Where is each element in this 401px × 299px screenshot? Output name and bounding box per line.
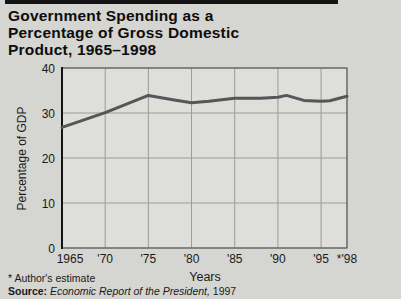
y-axis-tick-label: 20 — [42, 152, 56, 166]
x-axis-tick-label: '80 — [184, 252, 200, 266]
x-axis-tick-label: '75 — [141, 252, 157, 266]
x-axis-tick-label: '70 — [97, 252, 113, 266]
y-axis-tick-label: 10 — [42, 197, 56, 211]
x-axis-tick-label: '95 — [313, 252, 329, 266]
x-axis-tick-label: 1965 — [57, 252, 84, 266]
y-axis-tick-label: 0 — [48, 242, 55, 256]
x-axis-title: Years — [145, 270, 265, 284]
source-line: Source: Economic Report of the President… — [8, 285, 236, 297]
x-axis-tick-label: '90 — [270, 252, 286, 266]
figure: Government Spending as a Percentage of G… — [0, 0, 401, 299]
source-year: 1997 — [210, 285, 236, 297]
y-axis-title: Percentage of GDP — [15, 69, 30, 249]
x-axis-tick-label: '85 — [227, 252, 243, 266]
footnote-author-estimate: * Author's estimate — [8, 272, 95, 284]
chart-svg: 0102030401965'70'75'80'85'90'95*'98 — [0, 0, 401, 299]
source-work: Economic Report of the President, — [47, 285, 210, 297]
source-label: Source: — [8, 285, 47, 297]
y-axis-tick-label: 40 — [42, 62, 56, 76]
y-axis-tick-label: 30 — [42, 107, 56, 121]
x-axis-tick-label: *'98 — [337, 252, 358, 266]
